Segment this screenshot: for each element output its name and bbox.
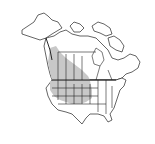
range-map: [0, 0, 155, 144]
baffin-island: [108, 36, 124, 52]
north-america-map: [0, 0, 155, 144]
arctic-islands-2: [92, 22, 112, 36]
arctic-islands: [70, 22, 84, 32]
